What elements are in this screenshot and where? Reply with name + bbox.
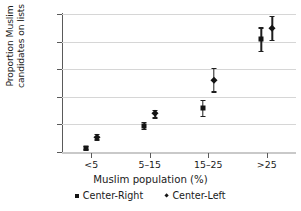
error-bar-cap <box>142 129 147 130</box>
error-bar-cap <box>270 16 275 17</box>
gridline <box>62 69 296 70</box>
chart-legend: Center-RightCenter-Left <box>0 191 301 201</box>
x-axis-tick-mark <box>267 153 268 158</box>
y-axis-label-line2: candidates on lists <box>16 0 27 116</box>
legend-marker-icon <box>165 194 170 199</box>
y-axis-label: Proportion Muslim candidates on lists <box>5 0 35 116</box>
x-axis-tick-mark <box>91 153 92 158</box>
error-bar-cap <box>200 116 205 117</box>
legend-item-label: Center-Left <box>172 191 225 201</box>
chart-figure: Proportion Muslim candidates on lists 00… <box>0 0 301 211</box>
legend-item-label: Center-Right <box>83 191 143 201</box>
x-axis-tick-label: <5 <box>61 160 121 170</box>
error-bar-cap <box>211 91 216 92</box>
data-point-marker <box>269 25 275 31</box>
gridline <box>62 124 296 125</box>
gridline <box>62 97 296 98</box>
x-axis-tick-label: 5–15 <box>120 160 180 170</box>
data-point-marker <box>259 37 264 42</box>
plot-area <box>62 14 296 152</box>
data-point-marker <box>200 105 205 110</box>
x-axis-tick-mark <box>208 153 209 158</box>
error-bar-cap <box>153 117 158 118</box>
gridline <box>62 152 296 154</box>
data-point-marker <box>152 110 158 116</box>
legend-item-center-right[interactable]: Center-Right <box>75 191 143 201</box>
legend-marker-icon <box>75 194 78 197</box>
error-bar-cap <box>270 40 275 41</box>
error-bar-cap <box>200 100 205 101</box>
data-point-marker <box>142 123 147 128</box>
y-axis-label-line1: Proportion Muslim <box>5 0 16 116</box>
data-point-marker <box>83 145 88 150</box>
data-point-marker <box>211 76 217 82</box>
error-bar-cap <box>211 68 216 69</box>
x-axis-tick-mark <box>150 153 151 158</box>
x-axis-label: Muslim population (%) <box>0 174 301 185</box>
x-axis-tick-label: >25 <box>237 160 297 170</box>
error-bar-cap <box>259 27 264 28</box>
error-bar-cap <box>259 51 264 52</box>
gridline <box>62 14 296 15</box>
legend-item-center-left[interactable]: Center-Left <box>165 191 225 201</box>
x-axis-tick-label: 15–25 <box>178 160 238 170</box>
